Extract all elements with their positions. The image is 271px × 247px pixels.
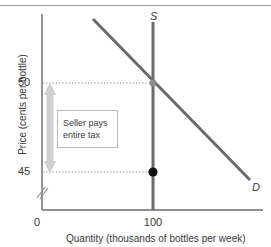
tax-incidence-arrow (44, 82, 56, 174)
y-axis-title: Price (cents per bottle) (17, 40, 28, 170)
x-axis-title: Quantity (thousands of bottles per week) (66, 233, 246, 244)
callout-line-2: entire tax (63, 129, 117, 141)
supply-demand-chart: 50 45 0 100 S D Quantity (thousands of b… (0, 0, 271, 247)
demand-curve (93, 19, 250, 180)
supply-curve-label: S (150, 11, 157, 22)
chart-plot-area (0, 0, 271, 247)
tax-incidence-callout: Seller pays entire tax (57, 110, 118, 148)
callout-line-1: Seller pays (63, 117, 117, 129)
x-tick-label-0: 0 (34, 217, 40, 228)
equilibrium-point (149, 79, 156, 86)
seller-price-point (148, 167, 157, 176)
x-tick-label-100: 100 (139, 217, 167, 228)
demand-curve-label: D (252, 182, 260, 193)
